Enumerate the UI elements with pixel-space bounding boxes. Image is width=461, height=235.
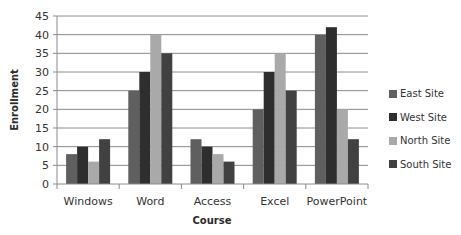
- bar: [128, 91, 139, 184]
- bar: [315, 35, 326, 184]
- bar: [88, 162, 99, 184]
- legend-swatch: [389, 137, 397, 145]
- x-tick-label: Access: [194, 195, 232, 208]
- y-tick-label: 25: [35, 85, 49, 98]
- legend-label: South Site: [400, 159, 451, 170]
- y-tick-label: 5: [42, 159, 49, 172]
- legend-swatch: [389, 113, 397, 121]
- bar: [99, 139, 110, 184]
- y-tick-label: 40: [35, 29, 49, 42]
- bar: [348, 139, 359, 184]
- x-axis-tick-labels: WindowsWordAccessExcelPowerPoint: [64, 195, 368, 208]
- bar: [191, 139, 202, 184]
- bar: [253, 109, 264, 184]
- bar: [286, 91, 297, 184]
- bar: [66, 154, 77, 184]
- bar: [326, 27, 337, 184]
- legend: East SiteWest SiteNorth SiteSouth Site: [389, 82, 451, 176]
- y-tick-label: 0: [42, 178, 49, 191]
- bar: [337, 109, 348, 184]
- legend-item: South Site: [389, 153, 451, 177]
- y-tick-label: 20: [35, 103, 49, 116]
- y-axis-tick-labels: 051015202530354045: [35, 10, 49, 191]
- legend-label: North Site: [400, 135, 450, 146]
- y-tick-label: 45: [35, 10, 49, 23]
- bar: [139, 72, 150, 184]
- bar: [150, 35, 161, 184]
- x-tick-label: Excel: [260, 195, 289, 208]
- legend-item: West Site: [389, 106, 451, 130]
- bar: [77, 147, 88, 184]
- x-tick-label: Windows: [64, 195, 113, 208]
- bar: [202, 147, 213, 184]
- bar: [224, 162, 235, 184]
- legend-label: East Site: [400, 88, 444, 99]
- legend-item: East Site: [389, 82, 451, 106]
- y-axis-title: Enrollment: [9, 69, 20, 131]
- legend-swatch: [389, 160, 397, 168]
- x-tick-label: PowerPoint: [307, 195, 368, 208]
- bars: [66, 27, 359, 184]
- y-tick-label: 30: [35, 66, 49, 79]
- bar: [264, 72, 275, 184]
- x-tick-label: Word: [136, 195, 164, 208]
- y-tick-label: 15: [35, 122, 49, 135]
- y-tick-label: 35: [35, 47, 49, 60]
- bar: [213, 154, 224, 184]
- legend-label: West Site: [400, 112, 447, 123]
- y-tick-label: 10: [35, 141, 49, 154]
- legend-swatch: [389, 90, 397, 98]
- bar: [275, 53, 286, 184]
- x-axis-title: Course: [193, 215, 232, 226]
- legend-item: North Site: [389, 129, 451, 153]
- bar: [161, 53, 172, 184]
